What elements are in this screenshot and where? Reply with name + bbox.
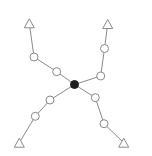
circle-node-bottom-left-1 [31,112,39,120]
edge-bottom-left-2 [19,116,35,142]
circle-node-top-right-1 [101,45,109,53]
triangle-leaf-top-left [24,19,34,28]
x-shaped-tree-diagram [0,0,152,156]
edge-top-left-2 [29,23,34,57]
center-node [71,81,79,89]
circle-node-bottom-right-0 [91,94,99,102]
circle-node-top-left-1 [30,53,38,61]
circle-node-top-right-0 [97,72,105,80]
triangle-leaf-bottom-left [14,138,24,147]
triangle-leaf-top-right [103,20,113,29]
circle-node-bottom-left-0 [46,96,54,104]
circle-node-bottom-right-1 [100,120,108,128]
circle-node-top-left-0 [53,68,61,76]
